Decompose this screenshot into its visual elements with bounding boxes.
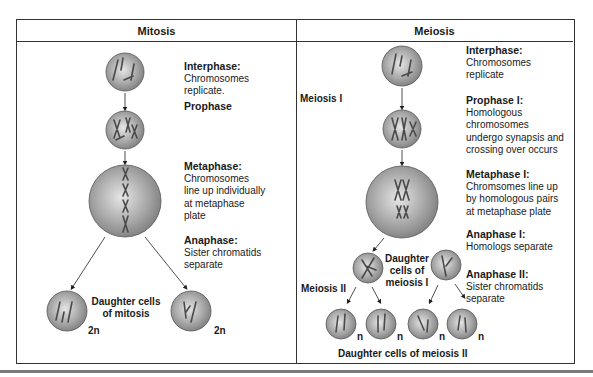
mitosis-prophase-label: Prophase bbox=[184, 100, 232, 113]
meiosis-ploidy-4: n bbox=[478, 331, 484, 343]
meiosis2-daughter-cell-3 bbox=[408, 309, 438, 339]
meiosis-prophase-i-label: Prophase I: Homologous chromosomes under… bbox=[466, 94, 564, 157]
meiosis2-daughter-cell-1 bbox=[326, 309, 356, 339]
mitosis-interphase-cell bbox=[106, 53, 144, 91]
meiosis2-daughter-cell-2 bbox=[366, 309, 396, 339]
meiosis-ploidy-3: n bbox=[439, 331, 445, 343]
meiosis-anaphase-ii-label: Anaphase II: Sister chromatids separate bbox=[466, 268, 543, 306]
meiosis-i-label: Meiosis I bbox=[300, 93, 342, 105]
meiosis-i-daughter-label: Daughter cells of meiosis I bbox=[382, 253, 432, 289]
mitosis-interphase-label: Interphase: Chromosomes replicate. bbox=[184, 60, 249, 98]
meiosis-interphase-label: Interphase: Chromosomes replicate bbox=[466, 44, 531, 82]
meiosis-prophase-cell bbox=[383, 110, 421, 148]
meiosis-interphase-cell bbox=[382, 46, 422, 86]
mitosis-anaphase-label: Anaphase: Sister chromatids separate bbox=[184, 234, 261, 272]
meiosis-ploidy-2: n bbox=[397, 331, 403, 343]
bottom-rule bbox=[0, 370, 593, 373]
arrow-to-meiosis1-daughter bbox=[374, 238, 384, 250]
mitosis-prophase-cell bbox=[106, 111, 144, 149]
meiosis-ploidy-1: n bbox=[357, 331, 363, 343]
meiosis2-daughter-cell-4 bbox=[447, 309, 477, 339]
meiosis-ii-label: Meiosis II bbox=[301, 283, 346, 295]
mitosis-daughter-cell-2 bbox=[171, 291, 211, 331]
mitosis-ploidy-1: 2n bbox=[88, 325, 100, 337]
meiosis-metaphase-i-label: Metaphase I: Chromsomes line up by homol… bbox=[466, 168, 558, 218]
mitosis-metaphase-label: Metaphase: Chromosomes line up individua… bbox=[184, 160, 265, 223]
meiosis-anaphase-i-label: Anaphase I: Homologs separate bbox=[466, 228, 553, 253]
meiosis-metaphase-cell bbox=[366, 166, 438, 238]
arrow-to-daughter-1 bbox=[72, 237, 105, 288]
mitosis-ploidy-2: 2n bbox=[214, 325, 226, 337]
arrow-to-daughter-2 bbox=[145, 237, 186, 288]
mitosis-daughter-cell-1 bbox=[47, 291, 87, 331]
meiosis-ii-daughter-label: Daughter cells of meiosis II bbox=[338, 348, 467, 360]
mitosis-daughter-label: Daughter cells of mitosis bbox=[88, 296, 164, 320]
